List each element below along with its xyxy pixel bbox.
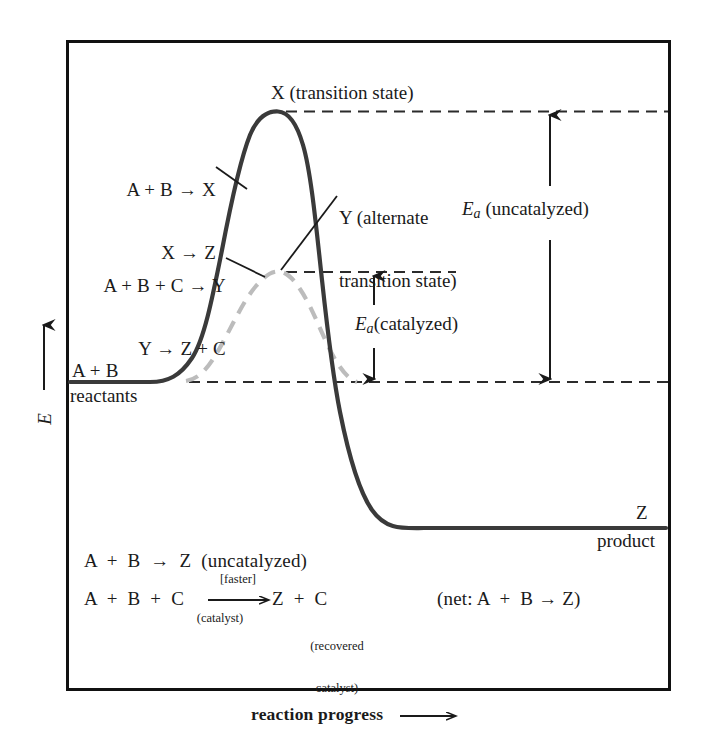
ea-catalyzed-rest: (catalyzed) [374,313,458,334]
ea-uncatalyzed-rest: (uncatalyzed) [481,198,589,219]
equation-catalyzed-prefix: A + B + C [84,588,184,609]
label-transition-state-y-line1: Y (alternate [339,207,457,228]
label-product-word: product [597,530,655,551]
energy-profile-figure: X (transition state) Y (alternate transi… [0,0,703,753]
ea-catalyzed-symbol: E [355,313,367,334]
leader-catalyzed-mechanism [226,258,265,277]
leader-transition-state-y [281,196,337,270]
mechanism-catalyzed-line2: Y → Z + C [76,338,226,359]
label-product-species: Z [636,502,648,523]
equation-catalyzed-products: Z + C [272,588,327,609]
equation-uncatalyzed-overall: A + B → Z (uncatalyzed) [84,550,307,571]
equation-arrow-condition: [faster] [203,572,273,586]
ea-catalyzed-subscript: a [367,320,374,336]
label-reactants-species: A + B [72,360,119,381]
label-ea-catalyzed: Ea(catalyzed) [355,313,458,337]
leader-uncatalyzed-mechanism [216,167,247,189]
ea-uncatalyzed-symbol: E [462,198,474,219]
mechanism-catalyzed-line1: A + B + C → Y [76,275,226,296]
label-transition-state-y: Y (alternate transition state) [339,164,457,334]
mechanism-uncatalyzed-line1: A + B → X [84,179,216,200]
recovered-catalyst-line2: catalyst) [282,681,392,695]
x-axis-label: reaction progress [251,705,383,725]
label-reactants-word: reactants [70,385,138,406]
equation-net-reaction: (net: A + B → Z) [437,588,581,609]
equation-catalyst-note: (catalyst) [175,611,265,625]
label-transition-state-x: X (transition state) [271,82,413,103]
y-axis-label: E [34,406,56,432]
label-transition-state-y-line2: transition state) [339,270,457,291]
label-ea-uncatalyzed: Ea (uncatalyzed) [462,198,589,222]
recovered-catalyst-line1: (recovered [282,639,392,653]
ea-uncatalyzed-subscript: a [474,205,481,221]
